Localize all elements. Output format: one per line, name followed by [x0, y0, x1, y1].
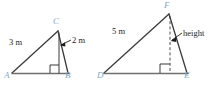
leader-2m: [60, 40, 71, 47]
geometry-figure: A B C 3 m 2 m D E F 5 m height: [0, 0, 220, 92]
measure-label-2m: 2 m: [72, 36, 85, 45]
vertex-label-E: E: [184, 71, 190, 80]
right-angle-mark-foot: [160, 64, 170, 73]
right-angle-mark-B: [50, 65, 59, 73]
vertex-label-B: B: [65, 71, 71, 80]
vertex-label-A: A: [4, 71, 10, 80]
measure-label-height: height: [183, 29, 204, 38]
triangle-DEF-shape: [104, 14, 188, 74]
measure-label-5m: 5 m: [112, 27, 125, 36]
vertex-label-D: D: [97, 71, 104, 80]
segment-DF: [104, 14, 169, 73]
vertex-label-C: C: [53, 17, 59, 26]
measure-label-3m: 3 m: [9, 38, 22, 47]
segment-FE: [169, 14, 187, 73]
leader-height: [171, 33, 183, 42]
vertex-label-F: F: [164, 1, 170, 10]
